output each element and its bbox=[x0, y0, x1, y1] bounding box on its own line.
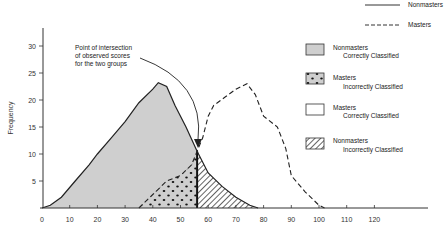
annotation-line-2: of observed scores bbox=[75, 52, 131, 59]
annotation-line-1: Point of intersection bbox=[75, 44, 132, 51]
y-axis-label: Frequency bbox=[7, 101, 15, 135]
y-ticks: 51015202530 bbox=[28, 43, 43, 185]
annotation-line-3: for the two groups bbox=[75, 60, 128, 68]
frequency-chart: 0102030405060708090100110120 51015202530… bbox=[0, 0, 445, 230]
region-legend: Nonmasters Correctly Classified Masters … bbox=[306, 44, 403, 154]
legend-region-1-line2: Correctly Classified bbox=[343, 52, 399, 60]
x-tick-label: 60 bbox=[204, 216, 212, 223]
x-tick-label: 90 bbox=[287, 216, 295, 223]
x-tick-label: 40 bbox=[149, 216, 157, 223]
y-tick-label: 15 bbox=[28, 124, 36, 131]
x-tick-label: 70 bbox=[232, 216, 240, 223]
x-tick-label: 10 bbox=[66, 216, 74, 223]
x-tick-label: 30 bbox=[121, 216, 129, 223]
legend-swatch-gray bbox=[306, 44, 324, 55]
y-tick-label: 5 bbox=[32, 178, 36, 185]
legend-region-2-line1: Masters bbox=[333, 74, 357, 81]
x-tick-label: 20 bbox=[94, 216, 102, 223]
legend-region-3-line2: Correctly Classified bbox=[343, 112, 399, 120]
legend-region-2-line2: Incorrectly Classified bbox=[343, 83, 403, 91]
x-tick-label: 50 bbox=[177, 216, 185, 223]
x-tick-label: 110 bbox=[341, 216, 352, 223]
y-tick-label: 20 bbox=[28, 97, 36, 104]
x-tick-label: 120 bbox=[369, 216, 381, 223]
legend-region-3-line1: Masters bbox=[333, 104, 357, 111]
legend-nonmasters-label: Nonmasters bbox=[408, 1, 444, 8]
x-tick-label: 100 bbox=[313, 216, 325, 223]
line-legend: Nonmasters Masters bbox=[365, 1, 444, 28]
nonmasters-incorrect-region bbox=[197, 151, 258, 208]
legend-region-1-line1: Nonmasters bbox=[333, 44, 369, 51]
legend-region-4-line1: Nonmasters bbox=[333, 137, 369, 144]
x-tick-label: 80 bbox=[260, 216, 268, 223]
legend-swatch-dotted bbox=[306, 73, 324, 84]
y-tick-label: 30 bbox=[28, 43, 36, 50]
y-tick-label: 25 bbox=[28, 70, 36, 77]
legend-masters-label: Masters bbox=[408, 21, 432, 28]
legend-swatch-white bbox=[306, 104, 324, 115]
legend-region-4-line2: Incorrectly Classified bbox=[343, 146, 403, 154]
y-tick-label: 10 bbox=[28, 151, 36, 158]
legend-swatch-hatched bbox=[306, 138, 324, 149]
x-tick-label: 0 bbox=[40, 216, 44, 223]
